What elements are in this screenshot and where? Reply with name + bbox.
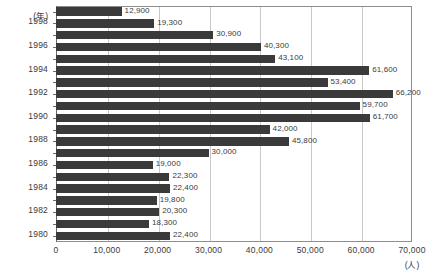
x-axis-tick-label: 50,000 [297,245,324,255]
x-axis-tick-label: 70,000 [398,245,425,255]
bar [56,19,154,27]
x-axis-tick-label: 30,000 [195,245,222,255]
bar-value-label: 19,300 [157,17,182,29]
bar-row: 30,000 [56,148,438,160]
bar [56,196,157,204]
bar [56,55,275,63]
bar [56,220,149,228]
y-axis-tick-label: 1996 [28,40,48,52]
bar-value-label: 18,300 [152,217,177,229]
bar-row: 53,400 [56,77,438,89]
bar-value-label: 20,300 [162,205,187,217]
bar-row: 30,900 [56,30,438,42]
bar [56,66,369,74]
y-axis-tick-label: 1992 [28,87,48,99]
x-axis-tick-label: 20,000 [144,245,171,255]
x-axis-unit: (人) [405,258,420,270]
x-axis-tick-label: 40,000 [246,245,273,255]
y-axis-tick-label: 1982 [28,205,48,217]
bar-value-label: 40,300 [264,40,289,52]
bar [56,78,328,86]
bar-value-label: 43,100 [278,52,303,64]
bar [56,90,393,98]
y-axis-tick-label: 1988 [28,134,48,146]
bar-row: 12,900 [56,6,438,18]
bar [56,137,289,145]
bar-value-label: 19,000 [156,158,181,170]
bar [56,208,159,216]
bar-row: 19,300 [56,18,438,30]
bar [56,149,209,157]
bar [56,31,213,39]
bar-row: 22,400 [56,183,438,195]
bar-value-label: 22,300 [172,170,197,182]
bar-value-label: 19,800 [160,194,185,206]
y-axis-tick-label: 1984 [28,182,48,194]
y-axis-tick-label: 1994 [28,64,48,76]
bar-value-label: 22,400 [173,229,198,241]
bar [56,114,370,122]
x-axis-tick-label: 60,000 [348,245,375,255]
bar [56,232,170,240]
bar [56,43,261,51]
bar-row: 61,600 [56,65,438,77]
bar-row: 19,800 [56,195,438,207]
bar-value-label: 22,400 [173,182,198,194]
y-axis-tick-label: 1998 [28,16,48,28]
bar-row: 42,000 [56,124,438,136]
bar [56,102,360,110]
bar-chart: (年) 199819961994199219901988198619841982… [0,0,438,277]
x-axis-tick-label: 10,000 [93,245,120,255]
y-axis-labels: (年) 199819961994199219901988198619841982… [0,6,52,242]
bar-value-label: 30,000 [212,146,237,158]
y-axis-tick-label: 1986 [28,158,48,170]
bars-container: 12,90019,30030,90040,30043,10061,60053,4… [56,6,438,242]
bar-value-label: 66,200 [396,87,421,99]
bar [56,161,153,169]
bar-value-label: 42,000 [273,123,298,135]
bar-row: 61,700 [56,112,438,124]
bar-row: 22,400 [56,230,438,242]
bar [56,184,170,192]
x-axis-labels: 010,00020,00030,00040,00050,00060,00070,… [0,245,438,259]
bar-value-label: 53,400 [331,76,356,88]
y-axis-tick-label: 1980 [28,229,48,241]
bar-value-label: 45,800 [292,135,317,147]
y-axis-tick-label: 1990 [28,111,48,123]
bar-row: 18,300 [56,218,438,230]
bar [56,125,270,133]
bar-row: 20,300 [56,207,438,219]
bar-row: 45,800 [56,136,438,148]
bar-value-label: 61,600 [372,64,397,76]
bar-row: 40,300 [56,41,438,53]
bar [56,173,169,181]
x-axis-tick-label: 0 [54,245,59,255]
bar-value-label: 12,900 [125,5,150,17]
bar-row: 22,300 [56,171,438,183]
bar-value-label: 59,700 [363,99,388,111]
bar [56,7,122,15]
bar-value-label: 30,900 [216,28,241,40]
bar-value-label: 61,700 [373,111,398,123]
bar-row: 19,000 [56,159,438,171]
